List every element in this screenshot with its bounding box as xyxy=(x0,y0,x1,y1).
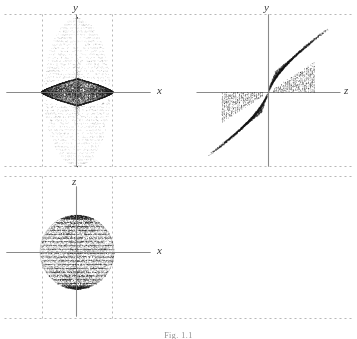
projection-plots-canvas xyxy=(0,0,357,339)
axis-label-y-panel-zy: y xyxy=(264,2,269,13)
axis-label-z-panel-zy: z xyxy=(344,85,348,96)
axis-label-x-panel-xz: x xyxy=(157,245,162,256)
axis-label-y-panel-xy: y xyxy=(73,2,78,13)
figure-container: x y z y x z Fig. 1.1 xyxy=(0,0,357,339)
axis-label-z-panel-xz: z xyxy=(72,176,76,187)
axis-label-x-panel-xy: x xyxy=(157,85,162,96)
figure-caption: Fig. 1.1 xyxy=(0,330,357,339)
